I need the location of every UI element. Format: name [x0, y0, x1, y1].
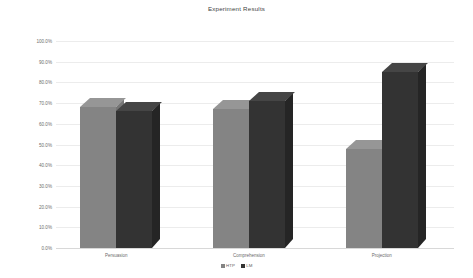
- bar-htp-projection[interactable]: [346, 149, 382, 248]
- y-axis-tick-label: 100.0%: [8, 39, 52, 44]
- legend-label: HTP: [226, 264, 235, 268]
- bar-front-face: [213, 109, 249, 248]
- y-axis-tick-label: 90.0%: [8, 59, 52, 64]
- gridline: [56, 41, 454, 42]
- gridline: [56, 248, 454, 249]
- x-axis-category-label: Persuasion: [105, 253, 128, 258]
- bar-side-face: [418, 63, 426, 248]
- bar-front-face: [80, 107, 116, 248]
- legend-item-lm[interactable]: LM: [241, 264, 253, 268]
- bar-lm-persuasion[interactable]: [116, 111, 152, 248]
- y-axis-tick-label: 30.0%: [8, 183, 52, 188]
- bar-front-face: [116, 111, 152, 248]
- legend-swatch-icon: [221, 264, 225, 268]
- bar-htp-comprehension[interactable]: [213, 109, 249, 248]
- legend-label: LM: [246, 264, 252, 268]
- y-axis-tick-label: 40.0%: [8, 163, 52, 168]
- y-axis-tick-label: 10.0%: [8, 225, 52, 230]
- x-axis-category-label: Comprehension: [233, 253, 265, 258]
- bar-lm-projection[interactable]: [382, 72, 418, 248]
- y-axis: 100.0%90.0%80.0%70.0%60.0%50.0%40.0%30.0…: [0, 41, 56, 248]
- bar-lm-comprehension[interactable]: [249, 101, 285, 248]
- y-axis-tick-label: 80.0%: [8, 80, 52, 85]
- y-axis-tick-label: 70.0%: [8, 101, 52, 106]
- chart-title: Experiment Results: [0, 5, 473, 12]
- x-axis-category-label: Projection: [372, 253, 392, 258]
- bar-front-face: [382, 72, 418, 248]
- plot-area: [56, 41, 454, 248]
- chart-legend: HTPLM: [0, 264, 473, 268]
- legend-swatch-icon: [241, 264, 245, 268]
- y-axis-tick-label: 60.0%: [8, 121, 52, 126]
- legend-item-htp[interactable]: HTP: [221, 264, 235, 268]
- y-axis-tick-label: 0.0%: [8, 246, 52, 251]
- y-axis-tick-label: 50.0%: [8, 142, 52, 147]
- bar-front-face: [346, 149, 382, 248]
- chart-container: Experiment Results 100.0%90.0%80.0%70.0%…: [0, 0, 473, 278]
- bar-htp-persuasion[interactable]: [80, 107, 116, 248]
- bar-side-face: [152, 103, 160, 248]
- y-axis-tick-label: 20.0%: [8, 204, 52, 209]
- bar-front-face: [249, 101, 285, 248]
- bar-side-face: [285, 92, 293, 248]
